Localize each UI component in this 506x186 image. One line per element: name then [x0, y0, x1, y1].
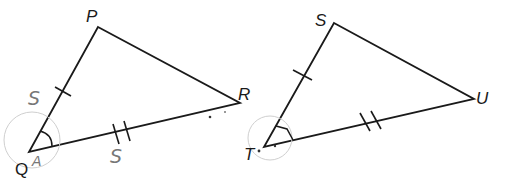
dot-t-2	[274, 145, 276, 147]
handwritten-s-qr: S	[110, 145, 122, 167]
tick-tu-1	[360, 113, 370, 131]
dot-r-2	[224, 111, 226, 113]
dot-r-1	[209, 116, 212, 119]
dot-t	[258, 150, 261, 153]
vertex-label-t: T	[244, 145, 256, 164]
handwritten-a-angle: A	[31, 153, 42, 169]
triangle-pqr: P R Q S S A	[4, 7, 250, 179]
angle-arc-q	[40, 131, 52, 146]
handwritten-s-pq: S	[28, 87, 40, 109]
vertex-label-u: U	[476, 89, 489, 108]
vertex-label-r: R	[238, 85, 250, 104]
vertex-label-p: P	[86, 7, 98, 26]
diagram-canvas: P R Q S S A S U T	[0, 0, 506, 186]
vertex-label-q: Q	[15, 160, 28, 179]
tick-qr-1	[113, 124, 119, 144]
tick-pq	[55, 87, 71, 96]
vertex-label-s: S	[315, 11, 327, 30]
angle-arc-t	[276, 126, 293, 140]
tick-qr-2	[124, 121, 130, 141]
triangle-stu: S U T	[244, 11, 489, 164]
